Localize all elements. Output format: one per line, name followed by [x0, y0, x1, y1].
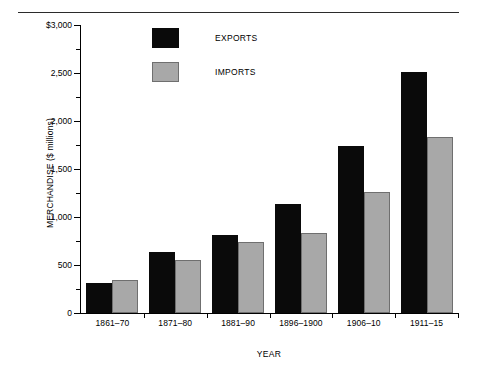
bar-exports-4	[338, 146, 364, 313]
x-tick-label: 1906–10	[332, 318, 395, 328]
bar-imports-3	[301, 233, 327, 313]
chart-figure: MERCHANDISE ($ millions) 05001,0001,5002…	[0, 0, 477, 374]
y-tick-major	[74, 217, 80, 218]
y-tick-label: $3,000	[46, 20, 72, 30]
y-tick-major	[74, 313, 80, 314]
bar-group	[332, 25, 395, 313]
bar-exports-1	[149, 252, 175, 313]
x-tick-label: 1881–90	[207, 318, 270, 328]
y-tick-label: 1,500	[51, 164, 72, 174]
y-tick-label: 500	[58, 260, 72, 270]
bar-exports-3	[275, 204, 301, 313]
x-tick-label: 1896–1900	[269, 318, 332, 328]
bar-group	[395, 25, 458, 313]
x-tick-mark	[458, 313, 459, 318]
bar-imports-0	[112, 280, 138, 313]
bar-group	[207, 25, 270, 313]
bar-exports-2	[212, 235, 238, 313]
y-tick-major	[74, 25, 80, 26]
x-tick-mark	[395, 313, 396, 318]
y-tick-label: 0	[67, 308, 72, 318]
y-tick-minor	[76, 241, 80, 242]
x-axis-label: YEAR	[80, 349, 458, 359]
top-rule-divider	[18, 12, 459, 13]
y-tick-minor	[76, 49, 80, 50]
y-tick-minor	[76, 193, 80, 194]
bar-groups	[81, 25, 458, 313]
x-axis-tick-labels: 1861–701871–801881–901896–19001906–10191…	[81, 318, 458, 328]
x-tick-label: 1871–80	[144, 318, 207, 328]
bar-imports-4	[364, 192, 390, 313]
x-tick-mark	[270, 313, 271, 318]
y-tick-label: 2,500	[51, 68, 72, 78]
y-tick-major	[74, 265, 80, 266]
x-tick-mark	[332, 313, 333, 318]
bar-group	[81, 25, 144, 313]
x-tick-label: 1911–15	[395, 318, 458, 328]
y-tick-major	[74, 121, 80, 122]
y-tick-minor	[76, 289, 80, 290]
bar-group	[269, 25, 332, 313]
bar-imports-5	[427, 137, 453, 313]
y-tick-major	[74, 169, 80, 170]
x-tick-label: 1861–70	[81, 318, 144, 328]
bar-imports-1	[175, 260, 201, 313]
x-tick-mark	[144, 313, 145, 318]
bar-imports-2	[238, 242, 264, 313]
bar-group	[144, 25, 207, 313]
y-tick-minor	[76, 145, 80, 146]
bar-exports-0	[86, 283, 112, 313]
bar-exports-5	[401, 72, 427, 313]
y-tick-label: 1,000	[51, 212, 72, 222]
y-tick-major	[74, 73, 80, 74]
y-tick-minor	[76, 97, 80, 98]
y-tick-label: 2,000	[51, 116, 72, 126]
x-tick-mark	[207, 313, 208, 318]
